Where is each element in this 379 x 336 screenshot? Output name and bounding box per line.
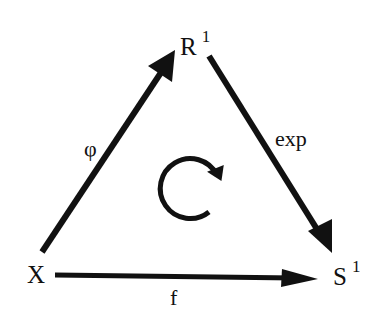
node-X-base: X	[27, 261, 45, 288]
node-S1: S1	[333, 264, 360, 289]
edge-label-phi: φ	[84, 138, 97, 160]
arrow-phi	[42, 50, 175, 252]
node-R1: R1	[180, 34, 210, 59]
node-X: X	[27, 262, 45, 287]
edge-label-exp: exp	[275, 128, 307, 150]
node-S1-sup: 1	[352, 257, 361, 276]
clockwise-circular-arrow-icon	[160, 159, 225, 219]
arrow-f	[55, 269, 318, 287]
node-R1-base: R	[180, 33, 197, 60]
node-S1-base: S	[333, 263, 347, 290]
commutative-diagram: R1 X S1 φ exp f	[0, 0, 379, 336]
arrow-exp	[209, 56, 332, 253]
edge-label-f: f	[170, 287, 177, 309]
node-R1-sup: 1	[202, 27, 211, 46]
